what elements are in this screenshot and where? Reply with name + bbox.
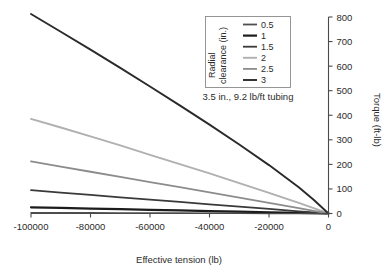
series-line-3 — [31, 14, 329, 213]
legend-label-1-5: 1.5 — [261, 42, 274, 52]
x-axis-ticks: -100000-80000-60000-40000-200000 — [14, 214, 332, 232]
legend-title-line1: Radial — [207, 52, 217, 78]
legend-label-2: 2 — [261, 53, 266, 63]
y-tick-label: 400 — [337, 110, 353, 121]
x-tick-label: -40000 — [195, 221, 225, 232]
axes-group — [31, 17, 329, 214]
y-tick-label: 700 — [337, 36, 353, 47]
legend-entries: 0.511.522.53 — [243, 20, 274, 86]
y-tick-label: 300 — [337, 134, 353, 145]
x-tick-label: -60000 — [135, 221, 165, 232]
legend-label-2-5: 2.5 — [261, 64, 274, 74]
x-tick-label: 0 — [326, 221, 331, 232]
series-lines-group — [31, 14, 329, 213]
legend-label-0-5: 0.5 — [261, 20, 274, 30]
series-line-2-5 — [31, 161, 329, 213]
x-axis-title: Effective tension (lb) — [136, 254, 222, 265]
y-tick-label: 800 — [337, 12, 353, 23]
legend[interactable]: Radial clearance (in.) 0.511.522.53 — [206, 17, 291, 88]
tubing-annotation: 3.5 in., 9.2 lb/ft tubing — [203, 91, 294, 102]
series-line-2 — [31, 119, 329, 214]
legend-label-1: 1 — [261, 31, 266, 41]
y-axis-ticks: 0100200300400500600700800 — [329, 12, 353, 220]
y-tick-label: 200 — [337, 159, 353, 170]
chart-figure: -100000-80000-60000-40000-200000 0100200… — [0, 0, 386, 276]
y-tick-label: 0 — [337, 208, 342, 219]
torque-vs-effective-tension-chart: -100000-80000-60000-40000-200000 0100200… — [0, 0, 386, 276]
y-tick-label: 600 — [337, 61, 353, 72]
x-tick-label: -100000 — [14, 221, 49, 232]
y-tick-label: 500 — [337, 85, 353, 96]
x-tick-label: -20000 — [254, 221, 284, 232]
x-tick-label: -80000 — [76, 221, 106, 232]
legend-title-line2: clearance (in.) — [218, 27, 228, 84]
y-axis-title: Torque (ft-lb) — [372, 93, 383, 147]
legend-label-3: 3 — [261, 75, 266, 85]
y-tick-label: 100 — [337, 183, 353, 194]
